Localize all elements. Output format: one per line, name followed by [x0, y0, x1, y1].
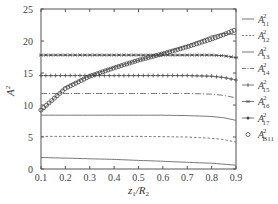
x-tick-label: 0.4 [108, 172, 121, 183]
legend-label: A214 [257, 61, 270, 77]
plot-frame [41, 9, 236, 169]
legend-item-6: A217 [242, 111, 270, 127]
y-tick-label: 25 [23, 4, 33, 15]
x-tick-label: 0.7 [181, 172, 194, 183]
x-tick-label: 0.2 [59, 172, 72, 183]
y-tick-label: 20 [23, 36, 33, 47]
legend: A211A212A213A214A215A216A217A2B11 [242, 12, 275, 144]
legend-item-5: A216 [242, 94, 270, 110]
x-tick-label: 0.9 [230, 172, 243, 183]
x-tick-label: 0.3 [84, 172, 97, 183]
x-axis-ticks: 0.10.20.30.40.50.60.70.80.9 [35, 9, 243, 183]
legend-item-1: A212 [242, 28, 270, 44]
x-axis-label: z1/R2 [127, 184, 150, 198]
series-3 [41, 94, 236, 99]
y-tick-label: 15 [23, 68, 33, 79]
plot-border [41, 9, 236, 169]
legend-circle-icon [246, 133, 250, 137]
legend-item-4: A215 [242, 78, 270, 94]
series-4 [39, 74, 238, 82]
y-axis-label: A2 [4, 85, 16, 97]
legend-label: A2B11 [257, 127, 275, 143]
legend-item-7: A2B11 [246, 127, 275, 143]
legend-label: A211 [257, 12, 270, 28]
x-tick-label: 0.1 [35, 172, 48, 183]
legend-item-3: A214 [242, 61, 270, 77]
legend-label: A216 [257, 94, 270, 110]
series-0 [41, 158, 236, 166]
legend-label: A215 [257, 78, 270, 94]
y-axis-ticks: 0510152025 [23, 4, 236, 175]
series-1 [41, 136, 236, 142]
legend-item-2: A213 [242, 45, 270, 61]
legend-item-0: A211 [242, 12, 270, 28]
series-7 [39, 28, 236, 112]
y-tick-label: 10 [23, 100, 33, 111]
legend-label: A217 [257, 111, 270, 127]
y-tick-label: 0 [28, 164, 33, 175]
x-tick-label: 0.5 [132, 172, 145, 183]
x-tick-label: 0.6 [157, 172, 170, 183]
legend-label: A213 [257, 45, 270, 61]
series-6 [41, 33, 236, 111]
legend-label: A212 [257, 28, 270, 44]
series-2 [41, 115, 236, 120]
chart: 0.10.20.30.40.50.60.70.80.9 0510152025 A… [0, 0, 278, 204]
data-series [39, 28, 238, 165]
y-tick-label: 5 [28, 132, 33, 143]
x-tick-label: 0.8 [205, 172, 218, 183]
